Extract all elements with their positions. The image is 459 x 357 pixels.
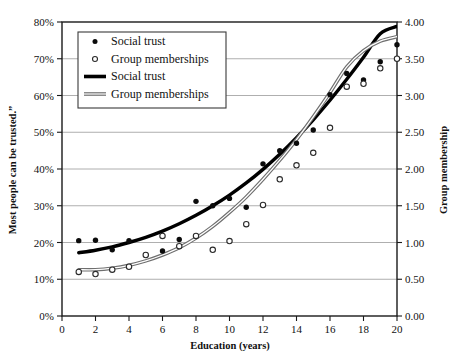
y-right-tick-label: 3.50 <box>405 53 425 65</box>
data-point-group-memberships <box>93 271 98 276</box>
data-point-group-memberships <box>394 56 399 61</box>
y-left-tick-label: 50% <box>34 126 54 138</box>
data-point-group-memberships <box>110 267 115 272</box>
y-right-tick-label: 0.50 <box>405 273 425 285</box>
data-point-social-trust <box>294 141 299 146</box>
legend-label: Social trust <box>111 34 166 48</box>
x-tick-label: 10 <box>224 323 236 335</box>
data-point-group-memberships <box>294 163 299 168</box>
data-point-group-memberships <box>277 177 282 182</box>
data-point-social-trust <box>110 247 115 252</box>
x-tick-label: 14 <box>291 323 303 335</box>
y-right-tick-label: 3.00 <box>405 90 425 102</box>
data-point-group-memberships <box>76 269 81 274</box>
data-point-social-trust <box>277 148 282 153</box>
x-axis-ticks: 02468101214161820 <box>59 316 403 335</box>
data-point-social-trust <box>378 59 383 64</box>
chart-figure: 02468101214161820 0%10%20%30%40%50%60%70… <box>0 0 459 357</box>
legend-label: Social trust <box>111 69 166 83</box>
data-point-social-trust <box>394 42 399 47</box>
y-axis-left-title: Most people can be trusted.” <box>7 106 18 235</box>
data-point-group-memberships <box>311 150 316 155</box>
data-point-social-trust <box>327 92 332 97</box>
data-point-social-trust <box>344 71 349 76</box>
data-point-group-memberships <box>126 264 131 269</box>
data-point-group-memberships <box>210 247 215 252</box>
data-point-group-memberships <box>177 243 182 248</box>
data-point-social-trust <box>210 203 215 208</box>
y-left-tick-label: 10% <box>34 273 54 285</box>
x-tick-label: 16 <box>325 323 337 335</box>
data-point-group-memberships <box>327 125 332 130</box>
data-point-social-trust <box>311 127 316 132</box>
y-left-tick-label: 0% <box>39 310 54 322</box>
y-right-tick-label: 2.50 <box>405 126 425 138</box>
y-axis-right-title: Group membership <box>438 126 449 214</box>
legend-label: Group memberships <box>111 52 209 66</box>
data-point-group-memberships <box>361 81 366 86</box>
data-point-social-trust <box>160 248 165 253</box>
y-right-tick-label: 1.00 <box>405 237 425 249</box>
chart-legend: Social trustGroup membershipsSocial trus… <box>78 32 226 108</box>
x-tick-label: 4 <box>126 323 132 335</box>
data-point-social-trust <box>227 196 232 201</box>
y-right-tick-label: 0.00 <box>405 310 425 322</box>
y-axis-right-ticks: 0.000.501.001.502.002.503.003.504.00 <box>397 16 425 322</box>
x-tick-label: 0 <box>59 323 65 335</box>
y-axis-left-ticks: 0%10%20%30%40%50%60%70%80% <box>34 16 62 322</box>
data-point-social-trust <box>260 161 265 166</box>
data-point-group-memberships <box>160 233 165 238</box>
y-left-tick-label: 60% <box>34 90 54 102</box>
y-right-tick-label: 4.00 <box>405 16 425 28</box>
y-right-tick-label: 2.00 <box>405 163 425 175</box>
data-point-social-trust <box>193 199 198 204</box>
y-right-tick-label: 1.50 <box>405 200 425 212</box>
x-axis-title: Education (years) <box>190 340 270 352</box>
legend-label: Group memberships <box>111 87 209 101</box>
x-tick-label: 2 <box>93 323 99 335</box>
y-left-tick-label: 80% <box>34 16 54 28</box>
data-point-group-memberships <box>344 84 349 89</box>
data-point-social-trust <box>126 238 131 243</box>
data-point-group-memberships <box>143 252 148 257</box>
x-tick-label: 18 <box>358 323 370 335</box>
data-point-social-trust <box>76 238 81 243</box>
x-tick-label: 20 <box>392 323 404 335</box>
x-tick-label: 12 <box>258 323 269 335</box>
data-point-social-trust <box>177 237 182 242</box>
data-point-social-trust <box>93 238 98 243</box>
data-point-group-memberships <box>244 221 249 226</box>
y-left-tick-label: 70% <box>34 53 54 65</box>
data-point-social-trust <box>244 205 249 210</box>
data-point-group-memberships <box>260 202 265 207</box>
x-tick-label: 6 <box>160 323 166 335</box>
data-point-group-memberships <box>227 238 232 243</box>
x-tick-label: 8 <box>193 323 199 335</box>
y-left-tick-label: 30% <box>34 200 54 212</box>
legend-marker-filled-circle-icon <box>93 39 98 44</box>
y-left-tick-label: 40% <box>34 163 54 175</box>
education-trust-membership-chart: 02468101214161820 0%10%20%30%40%50%60%70… <box>0 0 459 357</box>
y-left-tick-label: 20% <box>34 237 54 249</box>
legend-marker-open-circle-icon <box>93 57 98 62</box>
data-point-group-memberships <box>193 233 198 238</box>
data-point-group-memberships <box>378 66 383 71</box>
